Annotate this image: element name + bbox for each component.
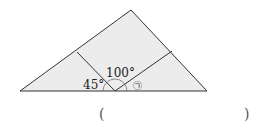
answer-open-paren: ( [99, 106, 104, 122]
answer-close-paren: ) [244, 106, 249, 122]
angle-45-label: 45° [83, 78, 104, 92]
angle-100-label: 100° [106, 66, 135, 80]
angle-unknown-label: ㉠ [133, 81, 142, 91]
folded-triangle-diagram: 45° 100° ㉠ [0, 0, 256, 127]
